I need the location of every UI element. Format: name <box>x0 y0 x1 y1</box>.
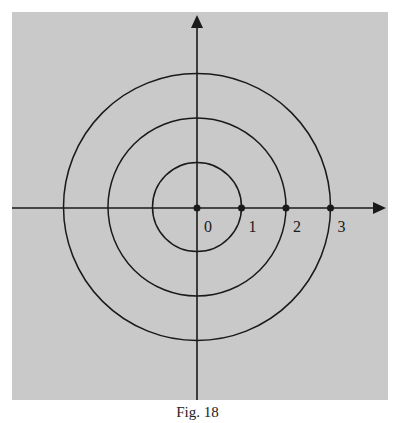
point-1 <box>238 205 245 212</box>
point-0 <box>194 205 201 212</box>
point-label-2: 2 <box>293 218 301 235</box>
y-axis-arrow-icon <box>191 15 203 28</box>
point-3 <box>327 205 334 212</box>
x-axis-arrow-icon <box>373 202 386 214</box>
point-label-3: 3 <box>338 218 346 235</box>
point-label-1: 1 <box>249 218 257 235</box>
point-label-0: 0 <box>204 218 212 235</box>
figure-caption: Fig. 18 <box>0 404 395 421</box>
diagram-svg: 0123 <box>0 0 395 423</box>
point-2 <box>283 205 290 212</box>
